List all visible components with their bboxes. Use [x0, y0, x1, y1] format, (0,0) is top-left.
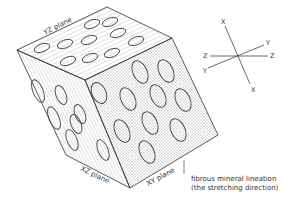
strain-block-diagram: YZ plane XZ plane XY plane fibrous miner… — [0, 0, 287, 201]
z-axis-label-right: Z — [270, 52, 275, 60]
y-axis-label-right: Y — [265, 39, 270, 47]
z-axis-label-left: Z — [203, 52, 208, 60]
lineation-annotation-line2: (the stretching direction) — [191, 184, 279, 192]
y-axis-label-left: Y — [202, 67, 207, 75]
y-axis-line — [208, 45, 264, 68]
coordinate-axes — [208, 26, 268, 84]
lineation-annotation-line1: fibrous mineral lineation — [191, 175, 276, 183]
x-axis-label-top: X — [221, 18, 226, 26]
x-axis-line — [225, 26, 250, 84]
x-axis-label-bottom: X — [251, 86, 256, 94]
